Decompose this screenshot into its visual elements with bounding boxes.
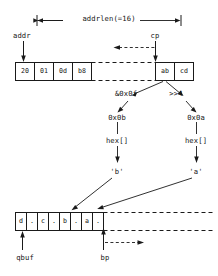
cp-pointer-label: cp — [151, 32, 160, 40]
cp-pointer-line — [153, 41, 158, 62]
addr-byte-2: 0d — [59, 67, 67, 75]
char-a: 'a' — [189, 168, 202, 176]
addr-pointer-label: addr — [13, 32, 31, 40]
op-shift-result: 0x0a — [187, 114, 205, 122]
qbuf-cell-7: . — [96, 217, 100, 225]
op-result-arrows — [118, 101, 197, 113]
hex-to-char-arrows — [115, 146, 199, 163]
qbuf-cell-3: . — [52, 217, 56, 225]
op-shift-label: >>4 — [169, 90, 182, 98]
addr-byte-ab: ab — [161, 67, 169, 75]
backward-scan-arrow — [114, 45, 156, 50]
qbuf-cell-0: d — [19, 217, 23, 225]
addr-byte-0: 20 — [21, 67, 29, 75]
qbuf-cell-1: . — [30, 217, 34, 225]
qbuf-cell-2: c — [41, 217, 45, 225]
char-b: 'b' — [110, 168, 123, 176]
char-to-qbuf-arrows — [72, 178, 193, 210]
op-mask-label: &0x0f — [115, 90, 137, 98]
addrlen-label: addrlen(=16) — [82, 15, 135, 23]
op-mask-result: 0x0b — [108, 114, 126, 122]
bp-pointer-line — [101, 228, 106, 250]
qbuf-pointer-line — [20, 231, 25, 250]
nibble-to-hex-diagram: addrlen(=16) addr cp 20 01 0d b8 ab cd &… — [0, 0, 218, 276]
addr-byte-1: 01 — [40, 67, 48, 75]
qbuf-buffer-boxes — [16, 213, 215, 231]
qbuf-cell-6: a — [85, 217, 89, 225]
hex-lookup-right: hex[] — [185, 137, 207, 145]
result-to-hex-connectors — [118, 122, 197, 134]
addr-byte-3: b8 — [78, 67, 86, 75]
qbuf-cell-4: b — [63, 217, 67, 225]
bp-pointer-label: bp — [101, 254, 110, 262]
qbuf-pointer-label: qbuf — [16, 254, 34, 262]
hex-lookup-left: hex[] — [106, 137, 128, 145]
addr-pointer-line — [21, 41, 26, 62]
addr-byte-cd: cd — [180, 67, 188, 75]
forward-fill-arrow — [105, 240, 144, 245]
qbuf-cell-5: . — [74, 217, 78, 225]
